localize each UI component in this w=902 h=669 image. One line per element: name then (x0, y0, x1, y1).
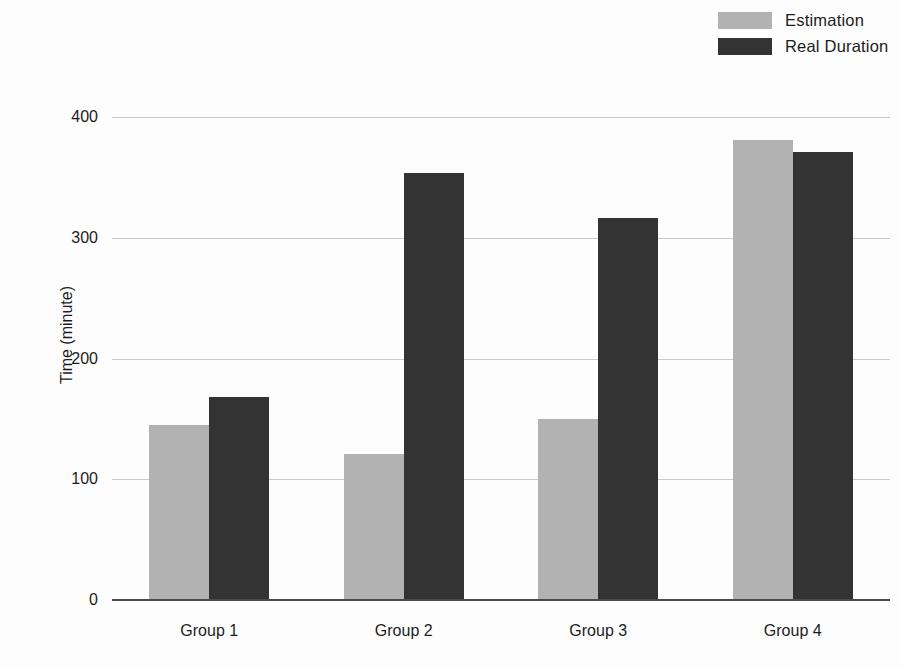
x-axis-tick-1: Group 1 (114, 622, 304, 640)
bar-group-2: Group 2 (307, 117, 502, 600)
bar-real-duration-1 (209, 397, 269, 600)
bar-estimation-2 (344, 454, 404, 600)
bar-group-1: Group 1 (112, 117, 307, 600)
x-axis-tick-3: Group 3 (503, 622, 693, 640)
y-axis-tick-0: 0 (89, 591, 98, 609)
bar-real-duration-3 (598, 218, 658, 600)
legend-item-real-duration: Real Duration (718, 34, 898, 58)
bar-real-duration-2 (404, 173, 464, 600)
bar-estimation-4 (733, 140, 793, 600)
legend-label-real-duration: Real Duration (785, 37, 889, 56)
y-axis-tick-100: 100 (71, 470, 98, 488)
plot-area: 0100200300400 Group 1Group 2Group 3Group… (112, 117, 890, 600)
y-axis-title: Time (minute) (58, 285, 76, 383)
chart-legend: Estimation Real Duration (718, 8, 898, 60)
legend-swatch-real-duration (718, 38, 772, 55)
legend-item-estimation: Estimation (718, 8, 898, 32)
y-axis-tick-200: 200 (71, 350, 98, 368)
bar-estimation-3 (538, 419, 598, 600)
x-axis-tick-2: Group 2 (309, 622, 499, 640)
bar-group-3: Group 3 (501, 117, 696, 600)
x-axis-line (112, 599, 890, 601)
bar-real-duration-4 (793, 152, 853, 600)
x-axis-tick-4: Group 4 (698, 622, 888, 640)
y-axis-tick-300: 300 (71, 229, 98, 247)
legend-label-estimation: Estimation (785, 11, 864, 30)
bar-estimation-1 (149, 425, 209, 600)
bar-chart-figure: Estimation Real Duration Time (minute) 0… (0, 0, 902, 669)
y-axis-tick-400: 400 (71, 108, 98, 126)
bar-group-4: Group 4 (696, 117, 891, 600)
legend-swatch-estimation (718, 12, 772, 29)
